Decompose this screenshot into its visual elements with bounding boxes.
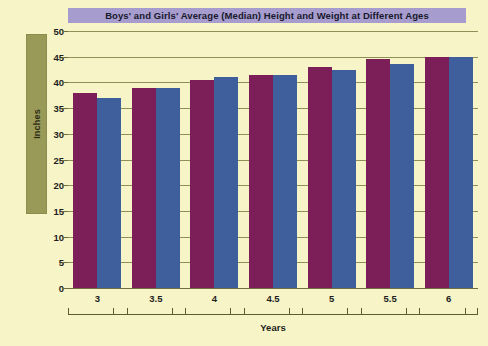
plot-area: [68, 31, 478, 288]
y-tick-label: 45: [30, 51, 64, 62]
bar-girls-5.5[interactable]: [390, 64, 414, 288]
y-tick-mark: [62, 160, 68, 161]
bar-boys-4.5[interactable]: [249, 75, 273, 288]
x-tick-mark: [127, 308, 128, 315]
x-minor-tick-mark: [113, 308, 114, 315]
y-tick-label: 5: [30, 257, 64, 268]
bar-boys-4[interactable]: [190, 80, 214, 288]
y-tick-mark: [62, 57, 68, 58]
x-tick-label: 5.5: [361, 293, 420, 304]
bar-boys-5.5[interactable]: [366, 59, 390, 288]
y-axis-tick-labels: 50454035302520151050: [24, 31, 64, 288]
bar-groups: [68, 31, 478, 288]
y-tick-mark: [62, 134, 68, 135]
x-minor-tick-mark: [406, 308, 407, 315]
x-axis-line: [68, 314, 478, 315]
x-tick-mark: [244, 308, 245, 315]
x-minor-tick-mark: [230, 308, 231, 315]
y-tick-mark: [62, 31, 68, 32]
y-tick-mark: [62, 108, 68, 109]
bar-group: [190, 31, 238, 288]
y-tick-mark: [62, 82, 68, 83]
y-tick-mark: [62, 185, 68, 186]
y-tick-mark: [62, 262, 68, 263]
bar-group: [366, 31, 414, 288]
y-tick-mark: [62, 288, 68, 289]
bar-girls-3.5[interactable]: [156, 88, 180, 288]
x-tick-mark: [361, 308, 362, 315]
bar-group: [249, 31, 297, 288]
y-tick-label: 0: [30, 283, 64, 294]
chart-title: Boys' and Girls' Average (Median) Height…: [105, 10, 429, 21]
y-tick-label: 40: [30, 77, 64, 88]
bar-boys-3.5[interactable]: [132, 88, 156, 288]
x-tick-mark: [302, 308, 303, 315]
bar-girls-6[interactable]: [449, 57, 473, 288]
y-tick-mark: [62, 237, 68, 238]
y-tick-label: 20: [30, 180, 64, 191]
x-minor-tick-mark: [347, 308, 348, 315]
x-tick-mark: [185, 308, 186, 315]
y-tick-label: 25: [30, 154, 64, 165]
bar-boys-6[interactable]: [425, 57, 449, 288]
y-tick-mark: [62, 211, 68, 212]
bar-group: [308, 31, 356, 288]
y-tick-label: 35: [30, 103, 64, 114]
y-tick-label: 10: [30, 231, 64, 242]
chart-page: Inches Boys' and Girls' Average (Median)…: [0, 0, 488, 346]
chart-title-bar: Boys' and Girls' Average (Median) Height…: [68, 8, 466, 23]
x-minor-tick-mark: [465, 308, 466, 315]
x-minor-tick-mark: [289, 308, 290, 315]
bar-girls-3[interactable]: [97, 98, 121, 288]
x-tick-label: 4.5: [244, 293, 303, 304]
x-tick-mark: [68, 308, 69, 315]
bar-boys-3[interactable]: [73, 93, 97, 288]
x-tick-label: 3: [68, 293, 127, 304]
bar-group: [73, 31, 121, 288]
gridline: [68, 288, 478, 289]
bar-boys-5[interactable]: [308, 67, 332, 288]
x-minor-tick-mark: [172, 308, 173, 315]
bar-girls-4[interactable]: [214, 77, 238, 288]
y-tick-label: 50: [30, 26, 64, 37]
x-tick-label: 3.5: [127, 293, 186, 304]
x-tick-label: 4: [185, 293, 244, 304]
bar-group: [425, 31, 473, 288]
x-axis-tick-labels: 33.544.555.56: [68, 291, 478, 305]
y-tick-label: 15: [30, 205, 64, 216]
x-tick-label: 6: [419, 293, 478, 304]
x-tick-label: 5: [302, 293, 361, 304]
x-axis: [68, 308, 478, 315]
bar-girls-4.5[interactable]: [273, 75, 297, 288]
bar-group: [132, 31, 180, 288]
x-tick-mark: [477, 308, 478, 315]
y-tick-label: 30: [30, 128, 64, 139]
bar-girls-5[interactable]: [332, 70, 356, 288]
x-axis-title: Years: [68, 322, 478, 333]
x-tick-mark: [419, 308, 420, 315]
